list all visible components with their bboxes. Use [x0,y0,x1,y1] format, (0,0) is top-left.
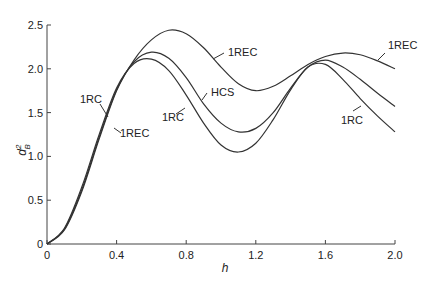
x-tick-label: 1.6 [318,249,333,261]
label-leader-line [213,53,224,59]
x-tick-label: 0 [44,249,50,261]
y-tick-label: 1.0 [28,150,43,162]
x-tick-label: 2.0 [387,249,402,261]
x-tick-label: 0.8 [179,249,194,261]
label-leader-line [378,53,385,60]
y-tick-label: 2.5 [28,19,43,31]
y-tick-label: 0 [37,238,43,250]
curve-label: 1RC [162,111,184,123]
curves [47,30,395,244]
x-tick-label: 1.2 [248,249,263,261]
curve-label: 1RC [341,114,363,126]
label-leader-line [202,93,207,100]
curve-label: 1REC [388,39,417,51]
curve-hcs [47,52,395,244]
y-tick-label: 2.0 [28,63,43,75]
curve-label: 1RC [80,93,102,105]
label-leader-line [353,106,361,111]
x-axis-label: h [222,261,229,275]
y-tick-label: 1.5 [28,107,43,119]
label-leader-line [100,104,108,117]
chart: 00.40.81.21.62.000.51.01.52.02.5hd2B 1RE… [0,0,429,287]
curve-label: HCS [211,86,234,98]
y-tick-label: 0.5 [28,194,43,206]
curve-label: 1REC [120,127,149,139]
x-tick-label: 0.4 [109,249,124,261]
curve-label: 1REC [228,46,257,58]
axes: 00.40.81.21.62.000.51.01.52.02.5hd2B [14,19,403,275]
